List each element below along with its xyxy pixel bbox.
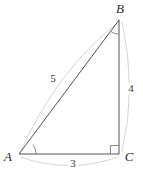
angle-arc-a <box>33 145 36 155</box>
vertex-label-a: A <box>4 150 12 163</box>
right-angle-mark-c <box>111 146 120 155</box>
side-length-label-bc: 4 <box>126 83 136 94</box>
angle-arc-b <box>111 32 120 35</box>
vertex-label-b: B <box>116 2 124 15</box>
geometry-figure: A B C 5 4 3 <box>0 0 143 174</box>
side-length-label-ac: 3 <box>68 158 78 169</box>
triangle-side-ab <box>19 20 119 154</box>
triangle-diagram-svg <box>0 0 143 174</box>
vertex-label-c: C <box>125 150 134 163</box>
side-length-label-ab: 5 <box>48 73 58 84</box>
